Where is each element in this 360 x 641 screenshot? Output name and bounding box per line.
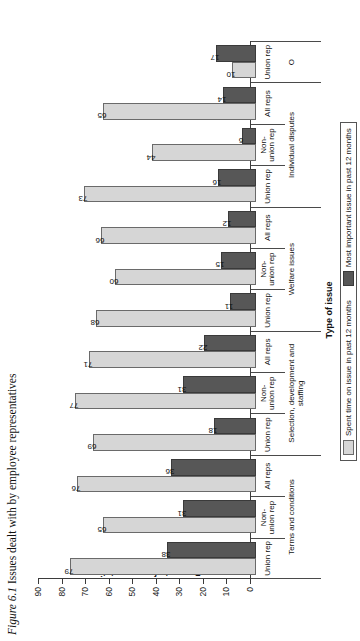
bar-most-important: 22 bbox=[204, 335, 256, 352]
category-label-text: Union rep bbox=[264, 293, 272, 328]
bar-most-important: 36 bbox=[171, 459, 256, 476]
legend-label-spent-time: Spent time on issue in past 12 months bbox=[344, 300, 353, 436]
issue-group-label-text: Individual disputes bbox=[288, 112, 297, 178]
legend-item-spent-time: Spent time on issue in past 12 months bbox=[343, 300, 354, 455]
figure-caption-text: Issues dealt with by employee representa… bbox=[6, 374, 18, 584]
category-label-text: Union rep bbox=[264, 45, 272, 80]
figure-number: Figure 6.1 bbox=[6, 587, 18, 635]
bar-spent-time: 77 bbox=[75, 393, 256, 410]
bar-spent-time: 71 bbox=[89, 351, 256, 368]
bar-most-important: 18 bbox=[214, 418, 256, 435]
value-axis-tick bbox=[38, 579, 39, 584]
bar-value-label: 10 bbox=[227, 70, 236, 79]
bar-spent-time: 73 bbox=[84, 186, 256, 203]
figure-caption: Figure 6.1 Issues dealt with by employee… bbox=[6, 374, 18, 635]
bar-value-label: 66 bbox=[95, 236, 104, 245]
bar-value-label: 60 bbox=[109, 277, 118, 286]
issue-group-label-text: O bbox=[288, 59, 297, 65]
value-axis-tick bbox=[132, 579, 133, 584]
issue-group-label-text: Welfare issues bbox=[288, 243, 297, 295]
category-label-union-rep: Union rep bbox=[251, 413, 285, 454]
value-axis-tick bbox=[85, 579, 86, 584]
value-axis-tick-label: 20 bbox=[198, 587, 208, 596]
bar-value-label: 11 bbox=[225, 302, 233, 311]
category-label-union-rep: Union rep bbox=[251, 41, 285, 82]
issue-group-label: Individual disputes bbox=[285, 82, 321, 206]
category-label-text: Union rep bbox=[264, 541, 272, 576]
bar-value-label: 77 bbox=[69, 401, 78, 410]
legend-label-most-important: Most important issue in past 12 months bbox=[344, 128, 353, 267]
category-label-text: All reps bbox=[264, 90, 272, 117]
bar-value-label: 36 bbox=[166, 467, 175, 476]
value-axis-tick-label: 0 bbox=[245, 587, 255, 592]
category-label-text: Non-union rep bbox=[260, 252, 277, 285]
value-axis-tick bbox=[109, 579, 110, 584]
bar-spent-time: 68 bbox=[96, 310, 256, 327]
bar-spent-time: 60 bbox=[115, 269, 256, 286]
bar-value-label: 22 bbox=[199, 343, 208, 352]
issue-group-label: O bbox=[285, 41, 321, 82]
bar-spent-time: 79 bbox=[70, 558, 256, 575]
chart-legend: Spent time on issue in past 12 months Mo… bbox=[340, 122, 357, 461]
bar-spent-time: 76 bbox=[77, 476, 256, 493]
bar-value-label: 18 bbox=[208, 426, 217, 435]
bar-value-label: 73 bbox=[79, 194, 88, 203]
value-axis-tick bbox=[156, 579, 157, 584]
plot-area: 9080706050403020100 Per cent of represen… bbox=[30, 41, 256, 579]
legend-swatch-spent-time-icon bbox=[343, 440, 354, 455]
bar-value-label: 65 bbox=[97, 525, 106, 534]
bar-spent-time: 69 bbox=[93, 434, 256, 451]
category-label-non-union-rep: Non-union rep bbox=[251, 372, 285, 413]
bar-most-important: 38 bbox=[167, 542, 257, 559]
group-axis-labels: Terms and conditionsSelection, developme… bbox=[285, 41, 321, 579]
bar-value-label: 69 bbox=[88, 442, 97, 451]
value-axis-tick-label: 10 bbox=[221, 587, 231, 596]
category-label-all-reps: All reps bbox=[251, 82, 285, 123]
category-label-text: Non-union rep bbox=[260, 377, 277, 410]
issue-group-label-text: Selection, development and staffing bbox=[288, 332, 306, 455]
category-label-union-rep: Union rep bbox=[251, 538, 285, 579]
value-axis-tick-label: 30 bbox=[174, 587, 184, 596]
issue-group-label-text: Terms and conditions bbox=[288, 479, 297, 555]
category-label-text: All reps bbox=[264, 339, 272, 366]
bar-spent-time: 44 bbox=[152, 144, 256, 161]
bar-value-label: 71 bbox=[83, 360, 92, 369]
bar-value-label: 12 bbox=[222, 219, 231, 228]
scanned-page: Figure 6.1 Issues dealt with by employee… bbox=[0, 0, 360, 641]
bar-value-label: 14 bbox=[218, 95, 227, 104]
category-label-text: Non-union rep bbox=[260, 501, 277, 534]
category-label-union-rep: Union rep bbox=[251, 289, 285, 330]
legend-item-most-important: Most important issue in past 12 months bbox=[343, 128, 354, 286]
legend-swatch-most-important-icon bbox=[343, 271, 354, 286]
bar-most-important: 31 bbox=[183, 376, 256, 393]
category-label-non-union-rep: Non-union rep bbox=[251, 124, 285, 165]
value-axis-tick-label: 90 bbox=[33, 587, 43, 596]
category-label-all-reps: All reps bbox=[251, 455, 285, 496]
bar-most-important: 17 bbox=[216, 45, 256, 62]
bar-spent-time: 65 bbox=[103, 103, 256, 120]
category-label-non-union-rep: Non-union rep bbox=[251, 248, 285, 289]
category-label-union-rep: Union rep bbox=[251, 165, 285, 206]
category-label-text: Union rep bbox=[264, 169, 272, 204]
bar-value-label: 68 bbox=[90, 318, 99, 327]
bar-value-label: 65 bbox=[97, 111, 106, 120]
value-axis-tick-label: 50 bbox=[127, 587, 137, 596]
value-axis-tick bbox=[250, 579, 251, 584]
category-label-text: All reps bbox=[264, 463, 272, 490]
bar-value-label: 16 bbox=[213, 178, 222, 187]
issue-group-label: Welfare issues bbox=[285, 207, 321, 331]
bar-value-label: 6 bbox=[239, 136, 243, 145]
value-axis-tick-label: 40 bbox=[151, 587, 161, 596]
figure-canvas: Figure 6.1 Issues dealt with by employee… bbox=[0, 0, 360, 641]
issue-group-label: Selection, development and staffing bbox=[285, 331, 321, 455]
bar-value-label: 15 bbox=[215, 260, 224, 269]
bar-value-label: 31 bbox=[178, 385, 187, 394]
category-label-all-reps: All reps bbox=[251, 207, 285, 248]
bar-value-label: 17 bbox=[211, 53, 220, 62]
bar-value-label: 44 bbox=[147, 153, 156, 162]
value-axis-tick-label: 80 bbox=[57, 587, 67, 596]
value-axis-tick bbox=[226, 579, 227, 584]
value-axis-tick-label: 60 bbox=[104, 587, 114, 596]
value-axis-tick bbox=[62, 579, 63, 584]
category-label-text: Union rep bbox=[264, 417, 272, 452]
